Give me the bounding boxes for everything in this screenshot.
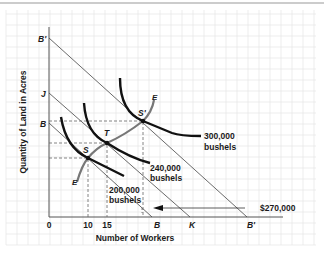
point-sprime [141, 119, 145, 123]
isoquant-label-200000-unit: bushels [109, 195, 141, 205]
isoquant-label-300000-unit: bushels [204, 142, 236, 152]
isoquant-label-300000: 300,000 [204, 131, 235, 141]
isoquant-label-240000: 240,000 [150, 163, 181, 173]
arrow-head-icon [153, 205, 163, 211]
isoquant-300000 [120, 78, 201, 136]
point-label-sprime: S' [138, 108, 147, 118]
isoquant-label-240000-unit: bushels [150, 173, 182, 183]
isoquant-label-200000: 200,000 [109, 185, 140, 195]
y-tick-bprime: B' [38, 34, 47, 44]
x-tick-b: B [154, 220, 160, 230]
x-tick-bprime: B' [247, 220, 256, 230]
point-label-t: T [104, 128, 110, 138]
y-axis-label: Quantity of Land in Acres [18, 70, 28, 173]
x-tick-15: 15 [102, 220, 112, 230]
y-tick-b: B [40, 119, 46, 129]
x-tick-10: 10 [83, 220, 93, 230]
x-axis-label: Number of Workers [96, 233, 175, 243]
x-tick-0: 0 [47, 220, 52, 230]
expansion-label-high: E [152, 93, 158, 102]
point-s [86, 156, 90, 160]
cost-label: $270,000 [260, 203, 296, 213]
point-t [105, 141, 109, 145]
expansion-label-low: E [72, 178, 78, 187]
y-tick-j: J [41, 89, 46, 99]
point-label-s: S [83, 145, 89, 155]
production-chart: Quantity of Land in Acres Number of Work… [0, 0, 324, 256]
x-tick-k: K [189, 220, 196, 230]
